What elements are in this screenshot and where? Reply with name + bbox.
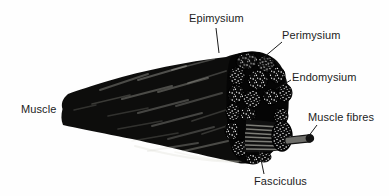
muscle-structure-figure: Muscle Epimysium Perimysium Endomysium M… bbox=[0, 0, 389, 196]
label-muscle-fibres: Muscle fibres bbox=[308, 111, 374, 123]
fasciculus-cut-end bbox=[272, 121, 292, 151]
label-endomysium: Endomysium bbox=[292, 71, 357, 83]
label-fasciculus: Fasciculus bbox=[254, 175, 307, 187]
perimysium-leader-line bbox=[263, 42, 282, 58]
label-perimysium: Perimysium bbox=[282, 29, 340, 41]
epimysium-leader-line bbox=[216, 28, 219, 53]
protruding-fasciculus bbox=[244, 120, 292, 152]
label-muscle: Muscle bbox=[21, 103, 56, 115]
label-epimysium: Epimysium bbox=[189, 12, 244, 24]
